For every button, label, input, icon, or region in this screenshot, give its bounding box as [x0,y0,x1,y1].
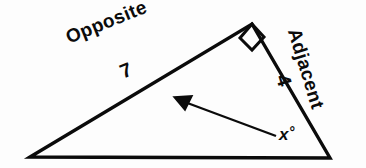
angle-variable-text: x [279,125,288,144]
pointer-arrow-shaft [182,101,276,136]
triangle-figure: Opposite 7 Adjacent 4 x° [0,0,366,168]
pointer-arrow-head-icon [174,96,192,110]
angle-label: x° [279,125,295,143]
degree-symbol-text: ° [289,124,295,140]
